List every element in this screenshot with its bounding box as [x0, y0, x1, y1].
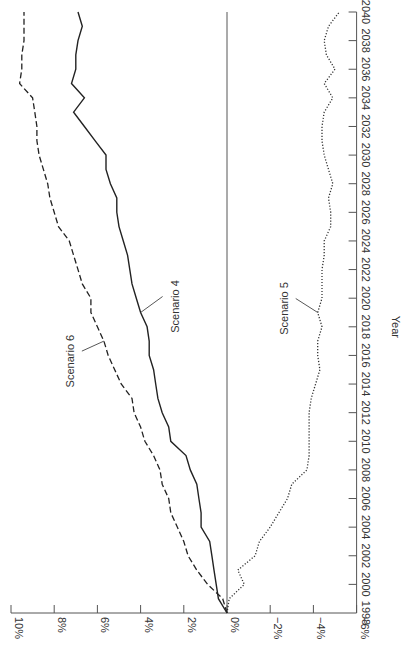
year-tick-label: 2038 [360, 28, 372, 52]
year-tick-label: 2014 [360, 372, 372, 396]
year-tick-label: 2040 [360, 0, 372, 24]
year-tick-label: 2000 [360, 572, 372, 596]
year-tick-label: 2026 [360, 200, 372, 224]
year-tick-label: 2006 [360, 486, 372, 510]
year-tick-label: 2036 [360, 57, 372, 81]
percent-tick-label: 8% [56, 617, 68, 633]
scenario-6-leader-line [82, 341, 104, 351]
percent-tick-label: 4% [143, 617, 155, 633]
year-tick-label: 2034 [360, 86, 372, 110]
year-tick-label: 2018 [360, 315, 372, 339]
percent-tick-label: 10% [13, 617, 25, 639]
year-tick-label: 2012 [360, 400, 372, 424]
year-tick-label: 2028 [360, 171, 372, 195]
scenario-4-label: Scenario 4 [169, 280, 181, 333]
year-tick-label: 2004 [360, 515, 372, 539]
scenario-6-label: Scenario 6 [64, 335, 76, 388]
year-tick-label: 2020 [360, 286, 372, 310]
year-tick-label: 2024 [360, 229, 372, 253]
scenario-4-line [72, 12, 228, 613]
line-chart: 10%8%6%4%2%0%−2%−4%−6%199820002002200420… [0, 0, 414, 646]
year-tick-label: 2032 [360, 114, 372, 138]
scenario-6-line [20, 12, 227, 613]
percent-tick-label: −4% [315, 617, 327, 640]
series-labels: Scenario 4Scenario 5Scenario 6 [64, 280, 318, 387]
scenario-4-leader-line [141, 297, 163, 313]
percent-tick-label: −2% [272, 617, 284, 640]
year-tick-label: 2022 [360, 257, 372, 281]
scenario-5-leader-line [296, 299, 318, 313]
year-tick-label: 2016 [360, 343, 372, 367]
percent-tick-label: 6% [99, 617, 111, 633]
axes: 10%8%6%4%2%0%−2%−4%−6%199820002002200420… [11, 0, 372, 640]
percent-tick-label: 2% [186, 617, 198, 633]
year-tick-label: 1998 [360, 601, 372, 625]
year-tick-label: 2008 [360, 458, 372, 482]
year-axis-title: Year [390, 316, 402, 339]
percent-tick-label: 0% [229, 617, 241, 633]
year-tick-label: 2030 [360, 143, 372, 167]
year-tick-label: 2002 [360, 544, 372, 568]
year-tick-label: 2010 [360, 429, 372, 453]
scenario-5-label: Scenario 5 [278, 282, 290, 335]
